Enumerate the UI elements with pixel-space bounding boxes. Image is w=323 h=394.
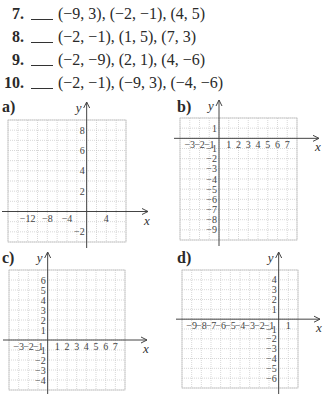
y-axis-label: y — [266, 250, 274, 265]
y-tick-label: 1 — [272, 304, 277, 315]
coordinate-grid-d: xy−9−8−7−6−5−4−3−2−114321−1−2−3−4−5−6 — [0, 0, 323, 394]
x-tick-label: 1 — [286, 320, 291, 331]
x-axis-label: x — [315, 320, 322, 335]
y-tick-label: −6 — [266, 373, 277, 384]
